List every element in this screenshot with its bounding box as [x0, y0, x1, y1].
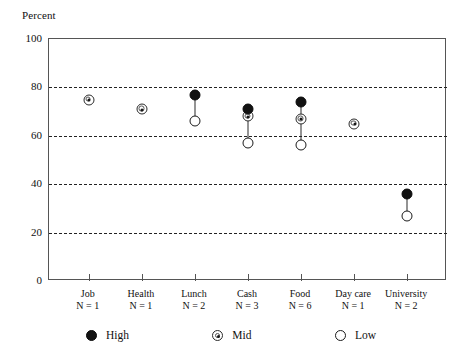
legend: HighMidLow — [86, 330, 376, 342]
category-count: N = 1 — [335, 300, 371, 312]
category-name: University — [385, 288, 427, 300]
gridline — [49, 184, 447, 185]
category-count: N = 2 — [181, 300, 207, 312]
category-name: Health — [128, 288, 155, 300]
data-point-mid — [83, 94, 94, 105]
legend-entry-high: High — [86, 330, 129, 342]
category-name: Lunch — [181, 288, 207, 300]
category-name: Job — [76, 288, 99, 300]
category-count: N = 6 — [289, 300, 312, 312]
data-point-mid — [136, 104, 147, 115]
x-axis-tick-mark — [301, 274, 302, 281]
y-axis-tick-label: 40 — [8, 178, 42, 189]
x-axis-tick-mark — [248, 274, 249, 281]
x-axis-tick-label-lunch: LunchN = 2 — [181, 288, 207, 312]
legend-entry-mid: Mid — [212, 330, 251, 342]
y-axis-tick-label: 0 — [8, 275, 42, 286]
x-axis-tick-mark — [354, 274, 355, 281]
category-count: N = 3 — [236, 300, 259, 312]
category-name: Day care — [335, 288, 371, 300]
x-axis-tick-label-university: UniversityN = 2 — [385, 288, 427, 312]
high-marker-icon — [86, 330, 97, 341]
category-count: N = 1 — [76, 300, 99, 312]
data-point-low — [296, 140, 307, 151]
data-point-high — [402, 188, 413, 199]
category-name: Food — [289, 288, 312, 300]
legend-entry-low: Low — [335, 330, 376, 342]
gridline — [49, 233, 447, 234]
y-axis-tick-label: 80 — [8, 81, 42, 92]
x-axis-tick-label-cash: CashN = 3 — [236, 288, 259, 312]
category-count: N = 2 — [385, 300, 427, 312]
x-axis-tick-mark — [142, 274, 143, 281]
x-axis-tick-mark — [195, 274, 196, 281]
x-axis-tick-mark — [407, 274, 408, 281]
x-axis-tick-label-health: HealthN = 1 — [128, 288, 155, 312]
legend-label: Mid — [232, 330, 251, 342]
category-count: N = 1 — [128, 300, 155, 312]
low-marker-icon — [335, 330, 346, 341]
category-name: Cash — [236, 288, 259, 300]
y-axis-title: Percent — [22, 10, 56, 21]
data-point-low — [243, 138, 254, 149]
y-axis-tick-label: 20 — [8, 226, 42, 237]
data-point-high — [296, 96, 307, 107]
y-axis-tick-label: 100 — [8, 33, 42, 44]
x-axis-tick-label-day-care: Day careN = 1 — [335, 288, 371, 312]
y-axis-tick-label: 60 — [8, 129, 42, 140]
x-axis-tick-label-job: JobN = 1 — [76, 288, 99, 312]
gridline — [49, 87, 447, 88]
mid-marker-icon — [212, 330, 223, 341]
data-point-high — [243, 104, 254, 115]
legend-label: High — [106, 330, 129, 342]
data-point-low — [402, 210, 413, 221]
plot-area — [48, 38, 446, 280]
x-axis-tick-label-food: FoodN = 6 — [289, 288, 312, 312]
data-point-mid — [296, 113, 307, 124]
data-point-high — [189, 89, 200, 100]
legend-label: Low — [355, 330, 376, 342]
data-point-mid — [349, 118, 360, 129]
percent-dot-chart: Percent 100806040200 JobN = 1HealthN = 1… — [0, 0, 455, 363]
x-axis-tick-mark — [89, 274, 90, 281]
data-point-low — [189, 116, 200, 127]
